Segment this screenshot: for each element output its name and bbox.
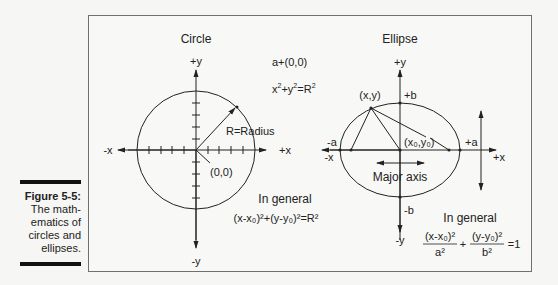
circle-general-equation: (x-x₀)²+(y-y₀)²=R² [234,212,319,224]
ellipse-pos-y-label: +y [394,56,406,68]
circle-title: Circle [181,32,212,46]
circle-neg-x-label: -x [103,144,113,156]
equation-rhs: =1 [508,238,521,250]
ellipse-pos-x-label: +x [493,151,505,163]
term1-denominator: a² [435,246,445,258]
pos-a-label: +a [465,136,478,148]
ellipse-neg-x-label: -x [324,151,334,163]
major-axis-label: Major axis [373,170,428,184]
point-label: (x,y) [359,89,380,101]
circle-center-note: a+(0,0) [272,56,307,68]
pos-b-label: +b [404,89,417,101]
center-label: (x₀,y₀) [404,136,435,148]
circle-equation: x2+y2=R2 [272,82,316,95]
circle-diagram: Circle +y a+(0,0) x2+y2=R2 [103,32,318,267]
plus-sign: + [460,238,466,250]
circle-pos-y-label: +y [190,55,202,67]
ellipse-diagram: Ellipse +y Major axi [322,32,520,258]
term1-numerator: (x-x₀)² [425,230,456,242]
radius-endpoint [236,106,239,109]
term2-numerator: (y-y₀)² [472,230,503,242]
ellipse-neg-y-label: -y [395,234,405,246]
circle-pos-x-label: +x [279,144,291,156]
neg-b-label: -b [404,204,414,216]
origin-label: (0,0) [210,166,233,178]
term2-denominator: b² [482,246,492,258]
circle-neg-y-label: -y [191,255,201,267]
circle-general-label: In general [258,192,311,206]
ellipse-general-label: In general [443,211,496,225]
ellipse-general-equation: (x-x₀)² a² + (y-y₀)² b² =1 [423,230,520,258]
neg-a-label: -a [327,136,338,148]
radius-label: R=Radius [226,125,275,137]
diagram-canvas: Circle +y a+(0,0) x2+y2=R2 [0,0,558,285]
ellipse-title: Ellipse [382,32,418,46]
